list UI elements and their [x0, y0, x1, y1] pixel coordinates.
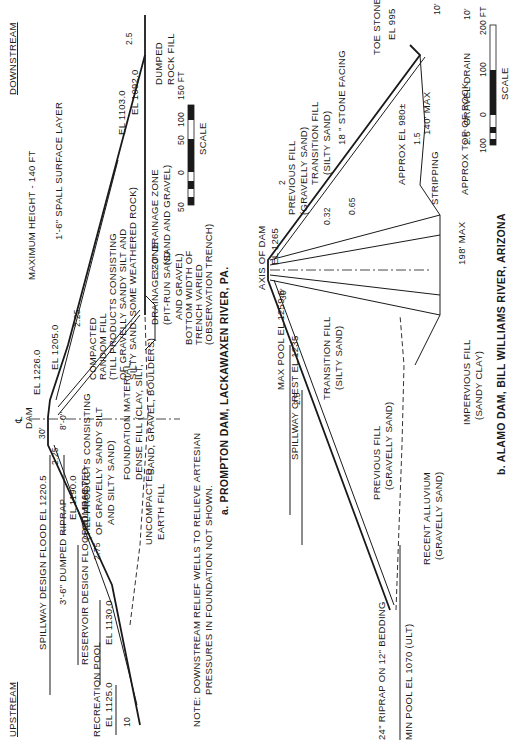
riprap-label-b: 24" RIPRAP ON 12" BEDDING: [376, 601, 387, 740]
axis-of-dam-label: AXIS OF DAM: [256, 225, 267, 290]
recreation-pool-label: RECREATION POOL: [91, 642, 102, 737]
compacted-earth-line-5: AND SILTY SAND): [105, 440, 116, 525]
riprap-label: 3'-6" DUMPED RIPRAP: [57, 499, 68, 605]
previous-fill-label-2: (GRAVELLY SAND): [298, 127, 309, 215]
core-offset-label: 8'-0": [58, 412, 68, 430]
compacted-earth-line-4: OF GRAVELLY SANDY SILT: [93, 407, 104, 535]
compacted-earth-line-3: (TILL PRODUCTS CONSISTING: [81, 393, 92, 540]
dam-axis-label: DAM: [23, 407, 34, 429]
svg-text:SCALE: SCALE: [499, 67, 510, 100]
transition-fill-label-1: TRANSITION FILL: [309, 101, 320, 185]
figure-a-prompton-dam: UPSTREAM DOWNSTREAM MAXIMUM HEIGHT - 140…: [7, 15, 230, 737]
impervious-label-1: IMPERVIOUS FILL: [461, 339, 472, 425]
ten-ft-label-2: 10': [462, 8, 472, 20]
previous-fill-left-label-2: (GRAVELLY SAND): [383, 402, 394, 490]
slope-ratio-down: 2.25: [72, 309, 82, 327]
svg-text:100: 100: [478, 138, 488, 153]
uncompacted-label-1: UNCOMPACTED: [143, 468, 154, 545]
toe-el-label: EL 995: [386, 8, 397, 40]
max-140-label: 140' MAX: [421, 91, 432, 135]
dam-sections-drawing: UPSTREAM DOWNSTREAM MAXIMUM HEIGHT - 140…: [0, 0, 521, 745]
impervious-base-left: [415, 315, 440, 365]
transition-fill-left-label-1: TRANSITION FILL: [321, 316, 332, 400]
approx-el-label: APPROX EL 980±: [396, 104, 407, 185]
recent-alluvium-label-2: (GRAVELLY SAND): [433, 472, 444, 560]
impervious-label-2: (SANDY CLAY): [473, 351, 484, 420]
dumped-rock-label-1: DUMPED: [153, 42, 164, 85]
slope-ratio-toe: 2.5: [124, 32, 134, 45]
max-198-label: 198' MAX: [456, 221, 467, 265]
uncompacted-label-2: EARTH FILL: [155, 483, 166, 540]
transition-fill-left: [270, 275, 440, 315]
drainage-zone-label-2: (PIT-RUN SAND: [161, 251, 172, 325]
previous-fill-label-1: PREVIOUS FILL: [286, 140, 297, 215]
figure-a-caption: a. PROMPTON DAM, LACKAWAXEN RIVER, PA.: [218, 267, 230, 515]
figure-b-caption: b. ALAMO DAM, BILL WILLIAMS RIVER, ARIZO…: [495, 213, 507, 475]
berm-el-label: EL 1205.0: [49, 324, 60, 370]
recent-alluvium-label-1: RECENT ALLUVIUM: [421, 472, 432, 565]
note-line-1: NOTE: DOWNSTREAM RELIEF WELLS TO RELIEVE…: [191, 433, 202, 728]
random-fill-line-5: SILTY SAND: SOME WEATHERED ROCK): [127, 187, 138, 380]
drainage-zone-label-1: DRAINAGE ZONE: [149, 242, 160, 325]
svg-text:50: 50: [176, 202, 186, 212]
svg-text:200 FT: 200 FT: [478, 6, 488, 35]
note-line-2: PRESSURES IN FOUNDATION NOT SHOWN.: [203, 485, 214, 695]
scale-bar-b: 100 0 100 200 FT SCALE: [478, 6, 510, 153]
dumped-rock-label-2: ROCK FILL: [165, 33, 176, 85]
crest-el-label: EL 1226.0: [31, 349, 42, 395]
toe-stone-label: TOE STONE: [371, 0, 382, 55]
el-1092-label: EL 1092.0: [129, 69, 140, 115]
slope-ratio-core-2: 0.65: [347, 197, 357, 215]
svg-text:50: 50: [176, 135, 186, 145]
svg-text:0: 0: [176, 170, 186, 175]
slope-ratio-core-1: 0.32: [322, 207, 332, 225]
slope-ratio-up-3: 10: [122, 717, 132, 727]
spillway-flood-label: SPILLWAY DESIGN FLOOD EL 1220.5: [37, 475, 48, 650]
min-pool-label: MIN POOL EL 1070 (ULT): [403, 623, 414, 740]
svg-text:0: 0: [478, 112, 488, 117]
stone-facing-label: 18 " STONE FACING: [336, 50, 347, 145]
svg-text:100: 100: [176, 112, 186, 127]
upstream-label: UPSTREAM: [7, 682, 18, 737]
foundation-label-2: DENSE FILL (CLAY, SILT,: [133, 364, 144, 480]
crest-width-label: 30': [37, 427, 47, 439]
diagram-canvas: UPSTREAM DOWNSTREAM MAXIMUM HEIGHT - 140…: [0, 0, 521, 745]
spall-layer-label: 1'-6" SPALL SURFACE LAYER: [53, 102, 64, 240]
recreation-el-label: EL 1125.0: [103, 682, 114, 727]
svg-text:150 FT: 150 FT: [176, 71, 186, 100]
scale-bar-a: 50 0 50 100 150 FT SCALE: [176, 71, 208, 212]
trench-label-3: (OBSERVATION TRENCH): [203, 224, 214, 345]
transition-fill-left-label-2: (SILTY SAND): [333, 326, 344, 390]
gravel-drain-label: 2.5' GRAVEL DRAIN: [461, 53, 472, 145]
svg-text:SCALE: SCALE: [197, 122, 208, 155]
stripping-label: STRIPPING: [429, 151, 440, 205]
downstream-label: DOWNSTREAM: [7, 22, 18, 95]
max-height-label: MAXIMUM HEIGHT - 140 FT: [26, 150, 37, 280]
ten-ft-label-1: 10': [432, 3, 442, 15]
previous-fill-left-label-1: PREVIOUS FILL: [371, 425, 382, 500]
figure-b-alamo-dam: AXIS OF DAM EL 1265 30' MAX POOL EL 1259…: [256, 0, 510, 740]
foundation-label-3: SAND, GRAVEL, BOULDERS): [145, 338, 156, 475]
transition-fill-label-2: (SILTY SAND): [321, 111, 332, 175]
el-1103-label: EL 1103.0: [116, 90, 127, 135]
svg-text:100: 100: [478, 62, 488, 77]
slope-ratio-up-b: 2.5: [292, 392, 302, 405]
